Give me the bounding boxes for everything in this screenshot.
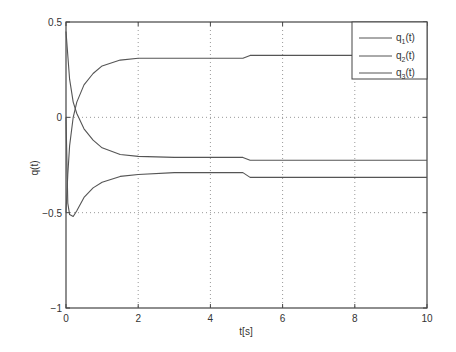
x-tick-label: 2 (135, 313, 141, 324)
series-line-q3 (66, 117, 427, 216)
line-chart: 02468100.50−0.5−1 t[s] q(t) q1(t) q2(t) … (0, 0, 456, 352)
x-tick-label: 6 (280, 313, 286, 324)
x-axis-label: t[s] (239, 326, 253, 337)
y-tick-label: −1 (51, 303, 63, 314)
x-tick-label: 4 (208, 313, 214, 324)
y-tick-label: −0.5 (42, 208, 62, 219)
x-tick-label: 8 (352, 313, 358, 324)
y-axis-label: q(t) (29, 161, 40, 176)
x-tick-label: 0 (63, 313, 69, 324)
x-tick-label: 10 (421, 313, 433, 324)
y-tick-label: 0.5 (48, 17, 62, 28)
y-tick-label: 0 (56, 112, 62, 123)
legend: q1(t) q2(t) q3(t) (352, 22, 427, 80)
